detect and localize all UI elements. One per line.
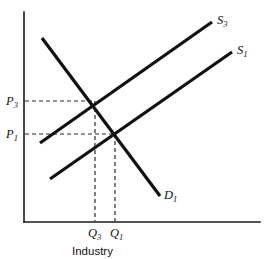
economics-diagram: S3 S1 D1 P3 P1 Q3 Q1 Industry bbox=[0, 0, 267, 259]
supply-curve-s3-label: S3 bbox=[217, 13, 228, 29]
supply-demand-figure: S3 S1 D1 P3 P1 Q3 Q1 Industry bbox=[0, 0, 267, 259]
demand-curve-d1-label: D1 bbox=[163, 188, 177, 204]
quantity-label-q3: Q3 bbox=[88, 226, 101, 242]
price-label-p3: P3 bbox=[5, 94, 18, 110]
x-axis-caption: Industry bbox=[72, 245, 113, 257]
supply-curve-s1-label: S1 bbox=[237, 43, 248, 59]
price-label-p1: P1 bbox=[5, 127, 18, 143]
quantity-label-q1: Q1 bbox=[110, 226, 123, 242]
